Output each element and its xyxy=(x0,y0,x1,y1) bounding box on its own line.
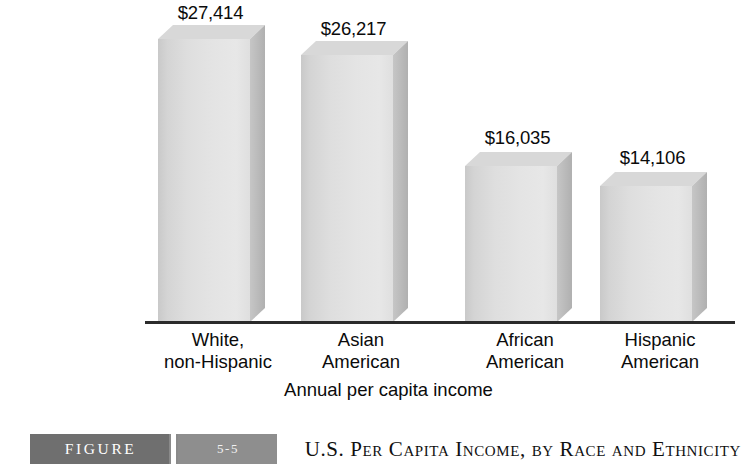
bar-value-label: $27,414 xyxy=(158,2,263,24)
bar-column xyxy=(301,41,421,322)
x-axis-title-text: Annual per capita income xyxy=(284,379,493,400)
figure-number-box: 5-5 xyxy=(178,434,277,464)
bar-3d-shape xyxy=(301,41,421,322)
bar-value-label: $26,217 xyxy=(301,18,406,40)
figure-caption-text: U.S. Per Capita Income, by Race and Ethn… xyxy=(305,437,741,462)
bar-column xyxy=(465,152,585,322)
figure-label-box: FIGURE xyxy=(30,434,169,464)
category-line-1: African xyxy=(450,329,600,351)
bar-chart: $27,414 White, xyxy=(0,0,741,412)
bar-category-label: White, non-Hispanic xyxy=(143,329,293,373)
category-line-1: Asian xyxy=(286,329,436,351)
category-line-2: non-Hispanic xyxy=(143,351,293,373)
bar-category-label: Hispanic American xyxy=(585,329,735,373)
figure-caption-bar: FIGURE 5-5 U.S. Per Capita Income, by Ra… xyxy=(0,432,741,466)
x-axis-line xyxy=(145,321,735,324)
bar-3d-shape xyxy=(465,152,585,322)
bar-column xyxy=(600,172,720,322)
category-line-1: Hispanic xyxy=(585,329,735,351)
bar-category-label: African American xyxy=(450,329,600,373)
category-line-1: White, xyxy=(143,329,293,351)
category-line-2: American xyxy=(450,351,600,373)
category-line-2: American xyxy=(286,351,436,373)
category-line-2: American xyxy=(585,351,735,373)
bar-column xyxy=(158,25,278,322)
bar-3d-shape xyxy=(600,172,720,322)
bar-value-label: $14,106 xyxy=(600,147,705,169)
figure-divider xyxy=(169,434,178,464)
bar-category-label: Asian American xyxy=(286,329,436,373)
bar-3d-shape xyxy=(158,25,278,322)
x-axis-title: Annual per capita income xyxy=(0,379,741,401)
bar-value-label: $16,035 xyxy=(465,127,570,149)
